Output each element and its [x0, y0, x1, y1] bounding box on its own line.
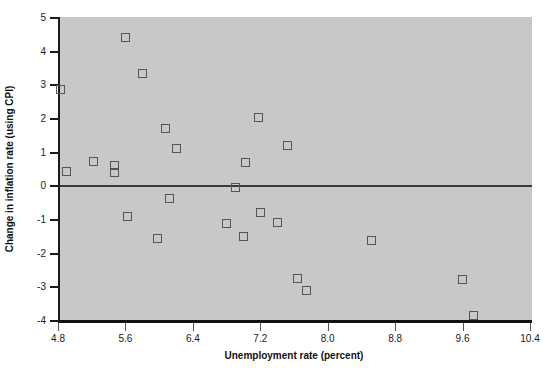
y-axis-tick-label: -2 [16, 247, 46, 258]
data-point [231, 183, 240, 192]
data-point [222, 219, 231, 228]
data-point [283, 141, 292, 150]
data-point [172, 144, 181, 153]
x-axis-tick-label: 5.6 [118, 333, 132, 344]
x-axis-tick [58, 323, 59, 331]
data-point [458, 275, 467, 284]
data-point [123, 212, 132, 221]
x-axis-tick-label: 9.6 [456, 333, 470, 344]
x-axis-tick [530, 323, 531, 331]
data-point [89, 157, 98, 166]
y-axis-tick-label: 5 [16, 12, 46, 23]
data-point [165, 194, 174, 203]
y-axis-tick-label: 2 [16, 113, 46, 124]
data-point [161, 124, 170, 133]
data-point [302, 286, 311, 295]
data-point [254, 113, 263, 122]
data-point [121, 33, 130, 42]
x-axis-tick [193, 323, 194, 331]
y-axis-tick-label: 3 [16, 79, 46, 90]
y-axis-tick-label: 1 [16, 146, 46, 157]
x-axis-tick-label: 7.2 [253, 333, 267, 344]
y-axis-tick-label: 0 [16, 180, 46, 191]
x-axis-tick-label: 4.8 [51, 333, 65, 344]
data-point [239, 232, 248, 241]
y-axis-tick-label: -3 [16, 281, 46, 292]
x-axis-tick-label: 10.4 [520, 333, 539, 344]
data-point [62, 167, 71, 176]
y-axis-label-container: Change in inflation rate (using CPI) [0, 17, 18, 320]
data-point [293, 274, 302, 283]
x-axis-tick-label: 6.4 [186, 333, 200, 344]
data-point [469, 311, 478, 320]
x-axis-tick-label: 8.8 [388, 333, 402, 344]
data-point [138, 69, 147, 78]
x-axis-tick [125, 323, 126, 331]
x-axis-tick [463, 323, 464, 331]
x-axis-tick [260, 323, 261, 331]
y-axis-tick-label: 4 [16, 45, 46, 56]
x-axis-tick [395, 323, 396, 331]
data-point [367, 236, 376, 245]
y-axis-tick-label: -1 [16, 214, 46, 225]
x-axis-title: Unemployment rate (percent) [58, 350, 530, 361]
plot-area [58, 17, 532, 323]
scatter-chart: Change in inflation rate (using CPI) 543… [0, 0, 555, 375]
data-point [56, 85, 65, 94]
data-point [273, 218, 282, 227]
x-axis-tick [328, 323, 329, 331]
data-point [153, 234, 162, 243]
data-point [110, 168, 119, 177]
x-axis-tick-label: 8.0 [321, 333, 335, 344]
data-point [256, 208, 265, 217]
zero-reference-line [60, 185, 532, 187]
y-axis-tick-label: -4 [16, 315, 46, 326]
y-axis-title: Change in inflation rate (using CPI) [4, 85, 15, 252]
data-point [241, 158, 250, 167]
